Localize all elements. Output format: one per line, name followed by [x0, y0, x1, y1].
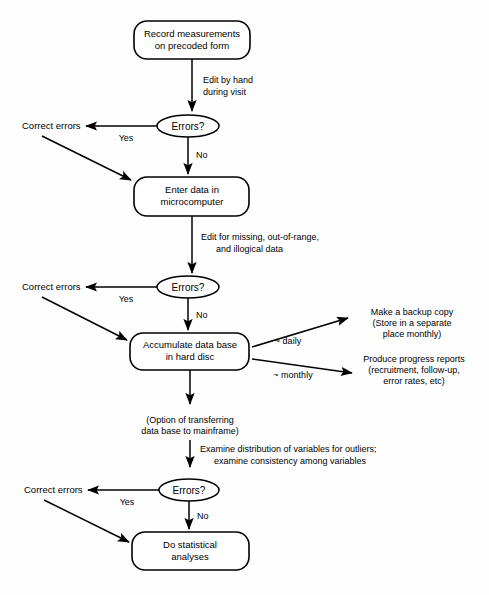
side-output-reports-line2: (recruitment, follow-up,: [368, 365, 460, 375]
edge-label-daily: ~ daily: [275, 336, 302, 346]
flowchart-svg: Record measurements on precoded form Edi…: [0, 0, 489, 595]
note-option-transfer-line2: data base to mainframe): [141, 426, 239, 436]
node-accumulate-database[interactable]: Accumulate data base in hard disc: [130, 333, 249, 370]
node-statistical-analyses-line2: analyses: [171, 551, 209, 562]
edge-label-no-2: No: [196, 310, 208, 320]
edge-label-no-3: No: [197, 511, 209, 521]
side-output-reports: Produce progress reports (recruitment, f…: [363, 354, 465, 386]
node-errors-decision-1[interactable]: Errors?: [157, 115, 219, 137]
node-statistical-analyses[interactable]: Do statistical analyses: [132, 532, 249, 570]
node-errors-decision-3[interactable]: Errors?: [159, 479, 219, 501]
edge-correct1-to-enter: [42, 136, 131, 180]
node-errors-decision-3-label: Errors?: [173, 485, 206, 496]
side-output-reports-line3: error rates, etc): [383, 376, 445, 386]
edge-label-edit-missing-line1: Edit for missing, out-of-range,: [201, 232, 319, 242]
edge-label-yes-1: Yes: [119, 133, 134, 143]
correct-errors-label-1: Correct errors: [22, 120, 81, 131]
edge-label-monthly: ~ monthly: [273, 370, 313, 380]
edge-label-edit-by-hand-line1: Edit by hand: [203, 75, 253, 85]
edge-label-examine-line2: examine consistency among variables: [214, 456, 367, 466]
side-output-backup-line2: (Store in a separate: [372, 318, 451, 328]
edge-label-edit-by-hand-line2: during visit: [203, 87, 247, 97]
edge-label-examine-line1: Examine distribution of variables for ou…: [200, 444, 377, 454]
edge-label-yes-3: Yes: [120, 497, 135, 507]
node-record-measurements[interactable]: Record measurements on precoded form: [134, 21, 250, 59]
node-enter-data-line1: Enter data in: [165, 184, 219, 195]
node-accumulate-database-line1: Accumulate data base: [143, 339, 237, 350]
edge-label-no-1: No: [196, 150, 208, 160]
node-enter-data-line2: microcomputer: [161, 196, 224, 207]
node-errors-decision-2[interactable]: Errors?: [157, 276, 219, 298]
side-output-backup-line3: place monthly): [383, 329, 442, 339]
node-accumulate-database-line2: in hard disc: [166, 351, 215, 362]
node-record-measurements-line2: on precoded form: [155, 40, 230, 51]
side-output-backup: Make a backup copy (Store in a separate …: [371, 307, 454, 339]
correct-errors-label-3: Correct errors: [24, 484, 83, 495]
note-option-transfer-line1: (Option of transferring: [146, 415, 234, 425]
side-output-reports-line1: Produce progress reports: [363, 354, 465, 364]
edge-correct2-to-accumulate: [42, 297, 127, 340]
node-errors-decision-1-label: Errors?: [172, 121, 205, 132]
edge-correct3-to-analyses: [44, 500, 129, 542]
node-errors-decision-2-label: Errors?: [172, 282, 205, 293]
edge-label-edit-missing-line2: and illogical data: [216, 244, 283, 254]
node-statistical-analyses-line1: Do statistical: [163, 539, 217, 550]
edge-label-yes-2: Yes: [119, 294, 134, 304]
side-output-backup-line1: Make a backup copy: [371, 307, 454, 317]
node-enter-data[interactable]: Enter data in microcomputer: [134, 177, 249, 216]
flowchart-canvas: Record measurements on precoded form Edi…: [0, 0, 489, 595]
node-record-measurements-line1: Record measurements: [144, 28, 240, 39]
correct-errors-label-2: Correct errors: [22, 281, 81, 292]
